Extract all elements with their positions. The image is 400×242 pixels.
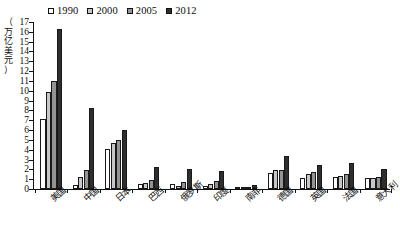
x-tick-mark xyxy=(35,189,36,193)
bar-中国-2012 xyxy=(89,108,94,189)
bar-南非-2000 xyxy=(241,187,246,189)
bar-日本-2000 xyxy=(111,143,116,189)
legend-swatch-2012-icon xyxy=(166,8,172,14)
bar-英国-2000 xyxy=(306,174,311,189)
y-tick-mark xyxy=(29,189,33,190)
bar-group xyxy=(235,22,257,189)
y-tick-mark xyxy=(29,160,33,161)
y-tick-label: 4 xyxy=(24,145,29,155)
bar-group xyxy=(268,22,290,189)
y-tick-label: 9 xyxy=(24,96,29,106)
bar-法国-2000 xyxy=(338,176,343,189)
bar-group xyxy=(333,22,355,189)
y-tick-mark xyxy=(29,179,33,180)
y-tick-label: 8 xyxy=(24,105,29,115)
y-tick-label: 14 xyxy=(20,46,30,56)
y-tick-label: 5 xyxy=(24,135,29,145)
y-tick-label: 2 xyxy=(24,164,29,174)
y-tick-label: 12 xyxy=(20,66,30,76)
y-tick-mark xyxy=(29,81,33,82)
bar-日本-2012 xyxy=(122,130,127,189)
plot-area: 01234567891011121314151617 美国中国日本巴西俄罗斯印度… xyxy=(33,22,390,190)
bar-美国-2000 xyxy=(46,92,51,189)
legend-swatch-1990-icon xyxy=(48,8,54,14)
y-tick-mark xyxy=(29,42,33,43)
bar-俄罗斯-2000 xyxy=(176,186,181,189)
legend-label: 1990 xyxy=(57,6,78,17)
bar-法国-1990 xyxy=(333,177,338,189)
bar-日本-1990 xyxy=(105,149,110,189)
y-tick-mark xyxy=(29,51,33,52)
y-tick-label: 17 xyxy=(20,17,30,27)
bar-group xyxy=(73,22,95,189)
bar-巴西-2000 xyxy=(143,183,148,189)
y-tick-label: 11 xyxy=(20,76,29,86)
bar-意大利-2000 xyxy=(370,178,375,189)
y-tick-label: 1 xyxy=(24,174,29,184)
bar-俄罗斯-1990 xyxy=(170,184,175,189)
y-tick-mark xyxy=(29,130,33,131)
bar-英国-1990 xyxy=(300,178,305,189)
bar-中国-1990 xyxy=(73,185,78,189)
y-tick-label: 10 xyxy=(20,86,30,96)
y-tick-mark xyxy=(29,22,33,23)
legend-label: 2012 xyxy=(175,6,196,17)
y-axis-line xyxy=(33,22,34,190)
y-tick-mark xyxy=(29,91,33,92)
legend-swatch-2000-icon xyxy=(87,8,93,14)
bar-group xyxy=(365,22,387,189)
bar-group xyxy=(40,22,62,189)
y-axis-title-char: ） xyxy=(2,66,15,76)
bar-巴西-1990 xyxy=(138,184,143,189)
y-tick-mark xyxy=(29,169,33,170)
bar-印度-2000 xyxy=(208,184,213,189)
y-tick-mark xyxy=(29,120,33,121)
legend-label: 2005 xyxy=(136,6,157,17)
y-tick-label: 0 xyxy=(24,184,29,194)
legend-item-2000: 2000 xyxy=(87,6,117,17)
chart-legend: 1990200020052012 xyxy=(48,6,197,17)
y-tick-label: 13 xyxy=(20,56,30,66)
bar-group xyxy=(170,22,192,189)
bar-美国-1990 xyxy=(40,119,45,189)
bar-group xyxy=(203,22,225,189)
legend-item-1990: 1990 xyxy=(48,6,78,17)
legend-item-2012: 2012 xyxy=(166,6,196,17)
bar-日本-2005 xyxy=(116,140,121,189)
bar-德国-1990 xyxy=(268,173,273,189)
y-tick-label: 15 xyxy=(20,37,30,47)
y-tick-label: 3 xyxy=(24,155,29,165)
y-axis-title: （万亿美元） xyxy=(2,18,15,76)
legend-item-2005: 2005 xyxy=(127,6,157,17)
y-tick-mark xyxy=(29,150,33,151)
y-tick-mark xyxy=(29,61,33,62)
bar-group xyxy=(105,22,127,189)
legend-swatch-2005-icon xyxy=(127,8,133,14)
y-tick-label: 7 xyxy=(24,115,29,125)
bar-美国-2005 xyxy=(51,81,56,189)
bar-德国-2000 xyxy=(273,170,278,189)
bar-美国-2012 xyxy=(57,29,62,189)
y-tick-mark xyxy=(29,110,33,111)
y-tick-mark xyxy=(29,101,33,102)
legend-label: 2000 xyxy=(96,6,117,17)
y-tick-mark xyxy=(29,140,33,141)
y-tick-label: 16 xyxy=(20,27,30,37)
bar-南非-1990 xyxy=(235,187,240,189)
bar-group xyxy=(300,22,322,189)
y-tick-label: 6 xyxy=(24,125,29,135)
bar-group xyxy=(138,22,160,189)
y-tick-mark xyxy=(29,32,33,33)
y-tick-mark xyxy=(29,71,33,72)
bar-中国-2000 xyxy=(78,177,83,189)
bar-意大利-1990 xyxy=(365,178,370,189)
